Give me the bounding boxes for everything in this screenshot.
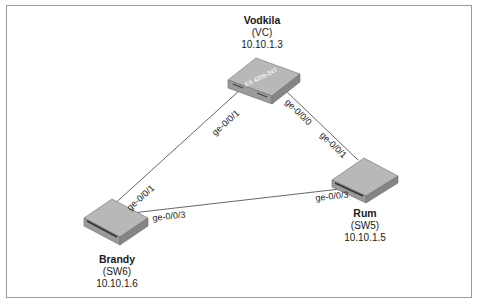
node-role: (SW6) (96, 266, 138, 279)
link-vodkila-rum (285, 90, 358, 160)
topology-canvas: EX 4200-24T (0, 0, 478, 304)
node-name: Rum (344, 207, 386, 220)
node-role: (SW5) (344, 220, 386, 233)
link-brandy-rum (132, 189, 340, 213)
node-name: Brandy (96, 253, 138, 266)
node-role: (VC) (241, 27, 283, 40)
node-ip: 10.10.1.3 (241, 39, 283, 52)
node-label-brandy: Brandy (SW6) 10.10.1.6 (96, 253, 138, 291)
node-name: Vodkila (241, 14, 283, 27)
node-ip: 10.10.1.6 (96, 278, 138, 291)
node-label-rum: Rum (SW5) 10.10.1.5 (344, 207, 386, 245)
node-ip: 10.10.1.5 (344, 232, 386, 245)
link-vodkila-brandy (110, 90, 240, 208)
node-label-vodkila: Vodkila (VC) 10.10.1.3 (241, 14, 283, 52)
